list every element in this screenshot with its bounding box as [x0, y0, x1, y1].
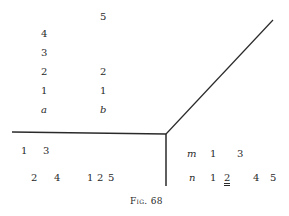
column-a-number: 1 [41, 86, 47, 96]
lower-left-number: 1 [21, 146, 27, 156]
lower-left-number: 2 [31, 173, 37, 183]
column-b-number: 2 [100, 67, 106, 77]
column-a-number: 4 [41, 29, 47, 39]
row-m-value: 1 [210, 149, 216, 159]
lower-left-number: 2 [97, 173, 103, 183]
row-m-value: 3 [237, 149, 243, 159]
row-n-value: 1 [210, 173, 216, 183]
figure-caption: Fig. 68 [130, 196, 163, 206]
lower-left-number: 1 [87, 173, 93, 183]
column-b-number: 5 [100, 12, 106, 22]
row-n-label: n [189, 173, 195, 183]
row-m-label: m [187, 149, 196, 159]
column-a-label: a [41, 105, 47, 115]
lower-left-number: 5 [108, 173, 114, 183]
row-n-value: 4 [253, 173, 259, 183]
horizontal-line [12, 132, 166, 134]
column-b-number: 1 [100, 86, 106, 96]
column-b-label: b [100, 105, 106, 115]
row-n-value: 5 [270, 173, 276, 183]
column-a-number: 2 [41, 67, 47, 77]
lower-left-number: 3 [43, 146, 49, 156]
lower-left-number: 4 [54, 173, 60, 183]
row-n-value-underlined: 2 [224, 173, 230, 186]
column-a-number: 3 [41, 48, 47, 58]
diagonal-line [166, 20, 273, 134]
